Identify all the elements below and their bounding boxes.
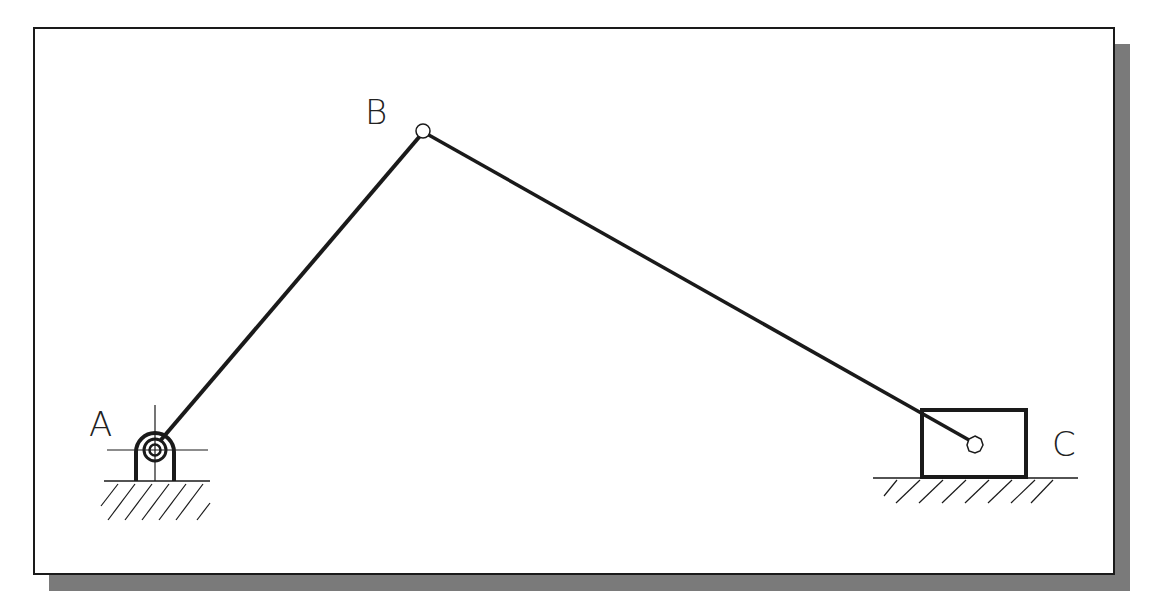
mechanism-diagram: A B C	[0, 0, 1149, 608]
ground-hatch-a	[101, 484, 210, 520]
crank-link	[160, 136, 420, 441]
ground-pivot-a	[101, 405, 210, 520]
label-c: C	[1052, 424, 1076, 464]
slider-block-c	[873, 410, 1078, 503]
connecting-rod	[427, 134, 969, 440]
joint-c	[967, 436, 983, 453]
ground-hatch-c	[884, 480, 1053, 503]
label-a: A	[89, 404, 112, 444]
label-b: B	[365, 92, 387, 132]
joint-b	[416, 124, 430, 138]
